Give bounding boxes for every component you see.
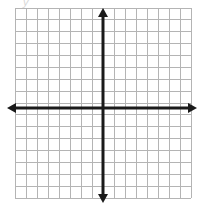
x-axis-left-arrowhead (7, 103, 16, 113)
coordinate-plane-figure: y (0, 0, 202, 209)
y-axis-up-arrowhead (98, 8, 108, 17)
grid-svg (0, 0, 202, 209)
x-axis-right-arrowhead (188, 103, 197, 113)
